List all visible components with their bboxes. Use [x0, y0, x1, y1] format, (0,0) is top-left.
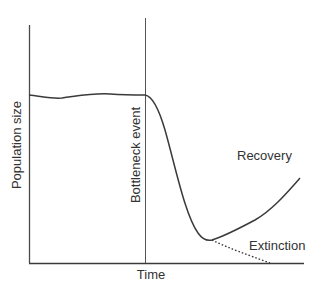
recovery-label: Recovery: [237, 148, 292, 163]
event-label: Bottleneck event: [128, 107, 143, 204]
x-axis-label: Time: [137, 267, 165, 282]
extinction-label: Extinction: [249, 238, 305, 253]
population-curve: [29, 94, 300, 241]
y-axis-label: Population size: [9, 101, 24, 189]
bottleneck-diagram: Population size Bottleneck event Time Re…: [0, 0, 322, 289]
